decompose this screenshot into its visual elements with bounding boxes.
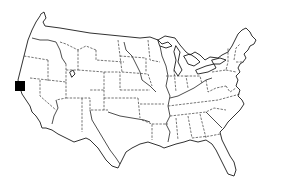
colorado-river xyxy=(52,100,58,124)
mississippi-river xyxy=(160,46,170,142)
great-salt-lake xyxy=(70,70,75,77)
columbia-snake-river xyxy=(32,38,66,64)
rio-grande xyxy=(90,110,120,164)
us-outline xyxy=(18,12,256,176)
savannah-river xyxy=(206,112,222,128)
ohio-river xyxy=(170,78,212,98)
state-borders xyxy=(24,40,244,140)
location-marker xyxy=(15,81,25,91)
us-map xyxy=(0,0,282,186)
